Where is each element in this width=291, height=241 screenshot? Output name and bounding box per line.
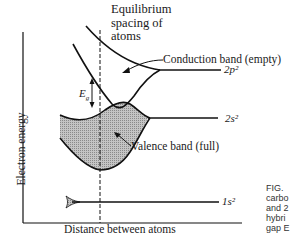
- figure-caption-fragment: FIG. carbo and 2 hybri gap E: [266, 183, 290, 233]
- orbital-2p-label: 2p²: [224, 63, 238, 75]
- y-axis-label: Electron energy: [15, 104, 27, 194]
- equilibrium-line-3: atoms: [111, 30, 171, 44]
- equilibrium-label: Equilibrium spacing of atoms: [111, 3, 171, 44]
- band-gap-label: Eg: [79, 87, 89, 102]
- equilibrium-line-2: spacing of: [111, 17, 171, 31]
- conduction-pointer-head: [122, 67, 130, 73]
- conduction-band-label: Conduction band (empty): [163, 53, 281, 65]
- x-axis-label: Distance between atoms: [64, 223, 176, 235]
- band-gap-symbol: E: [79, 87, 86, 99]
- valence-band-region: [60, 102, 148, 170]
- equilibrium-line-1: Equilibrium: [111, 3, 171, 17]
- valence-band-label: Valence band (full): [131, 140, 219, 152]
- band-gap-arrowhead-down: [90, 102, 95, 108]
- band-gap-subscript: g: [86, 94, 90, 102]
- band-diagram: Equilibrium spacing of atoms Conduction …: [0, 0, 291, 241]
- orbital-2s-label: 2s²: [225, 112, 238, 124]
- orbital-1s-label: 1s²: [222, 195, 235, 207]
